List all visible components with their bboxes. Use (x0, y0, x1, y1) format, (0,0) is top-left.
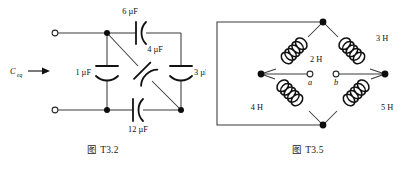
capacitor-1uf-plate-bottom (96, 76, 118, 81)
terminal-bottom-left[interactable] (52, 107, 58, 113)
capacitor-12uf-label: 12 µF (128, 125, 148, 134)
inductor-5h-coil (341, 78, 371, 108)
inductor-4h-label: 4 H (251, 103, 263, 112)
caption-t3-2: 图 T3.2 (0, 142, 206, 156)
capacitor-6uf-label: 6 µF (122, 7, 138, 16)
capacitor-4uf-label: 4 µF (147, 45, 163, 54)
capacitor-6uf-plate-right (142, 22, 147, 44)
wire-diagonal-top (107, 33, 138, 66)
inductor-3h (337, 36, 367, 66)
capacitor-3uf (170, 66, 192, 81)
capacitor-network-svg: 6 µF 1 µF 3 µF 4 µF (0, 0, 206, 140)
capacitor-12uf-plate-right (139, 99, 144, 121)
figure-t3-2: 6 µF 1 µF 3 µF 4 µF (0, 0, 206, 171)
capacitor-1uf-label: 1 µF (75, 68, 91, 77)
capacitor-6uf (136, 22, 146, 44)
wire-diagonal-bottom (152, 81, 181, 110)
capacitor-1uf (96, 66, 118, 81)
ceq-arrow-icon (28, 67, 50, 74)
inductor-bridge-svg: 2 H 3 H 4 H 5 H a b (205, 0, 411, 140)
terminal-a[interactable] (307, 71, 313, 77)
inductor-5h (341, 78, 371, 108)
node-bottom-left (104, 107, 110, 113)
capacitor-12uf (133, 99, 143, 121)
capacitor-3uf-plate-bottom (170, 76, 192, 81)
node-bottom-right (178, 107, 184, 113)
terminal-top-left[interactable] (52, 30, 58, 36)
inductor-5h-label: 5 H (381, 103, 393, 112)
node-top (320, 19, 327, 26)
inductor-2h-label: 2 H (310, 55, 322, 64)
inductor-2h (279, 36, 309, 66)
figure-t3-5: 2 H 3 H 4 H 5 H a b (205, 0, 411, 171)
node-left (258, 71, 265, 78)
terminal-a-label: a (308, 78, 312, 87)
inductor-4h-coil (275, 78, 305, 108)
node-top-left (104, 30, 110, 36)
terminal-b[interactable] (333, 71, 339, 77)
terminal-b-label: b (334, 78, 338, 87)
figure-sheet: 6 µF 1 µF 3 µF 4 µF (0, 0, 411, 171)
node-right (382, 71, 389, 78)
ceq-label-group: C eq (10, 67, 22, 78)
ceq-label: C (10, 67, 16, 76)
ceq-label-subscript: eq (17, 72, 22, 78)
inductor-3h-label: 3 H (376, 34, 388, 43)
inductor-2h-coil (279, 36, 309, 66)
caption-t3-5: 图 T3.5 (205, 142, 411, 156)
node-bottom (320, 122, 327, 129)
inductor-4h (275, 78, 305, 108)
inductor-3h-coil (337, 36, 367, 66)
